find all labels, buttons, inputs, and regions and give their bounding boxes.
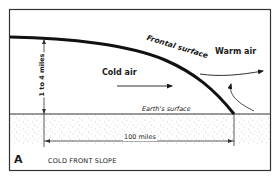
earths-surface-label: Earth's surface — [142, 106, 191, 113]
height-dimension-label: 1 to 4 miles — [39, 53, 46, 98]
height-arrow-bottom-icon — [42, 109, 46, 114]
warm-air-label: Warm air — [215, 48, 256, 56]
figure-caption: COLD FRONT SLOPE — [48, 158, 116, 165]
cold-air-label: Cold air — [102, 69, 137, 77]
panel-letter: A — [14, 154, 23, 165]
rising-air-arrow — [231, 84, 254, 111]
width-dimension-label: 100 miles — [123, 134, 157, 141]
warm-air-arrow — [200, 71, 263, 75]
figure-frame — [10, 10, 271, 171]
